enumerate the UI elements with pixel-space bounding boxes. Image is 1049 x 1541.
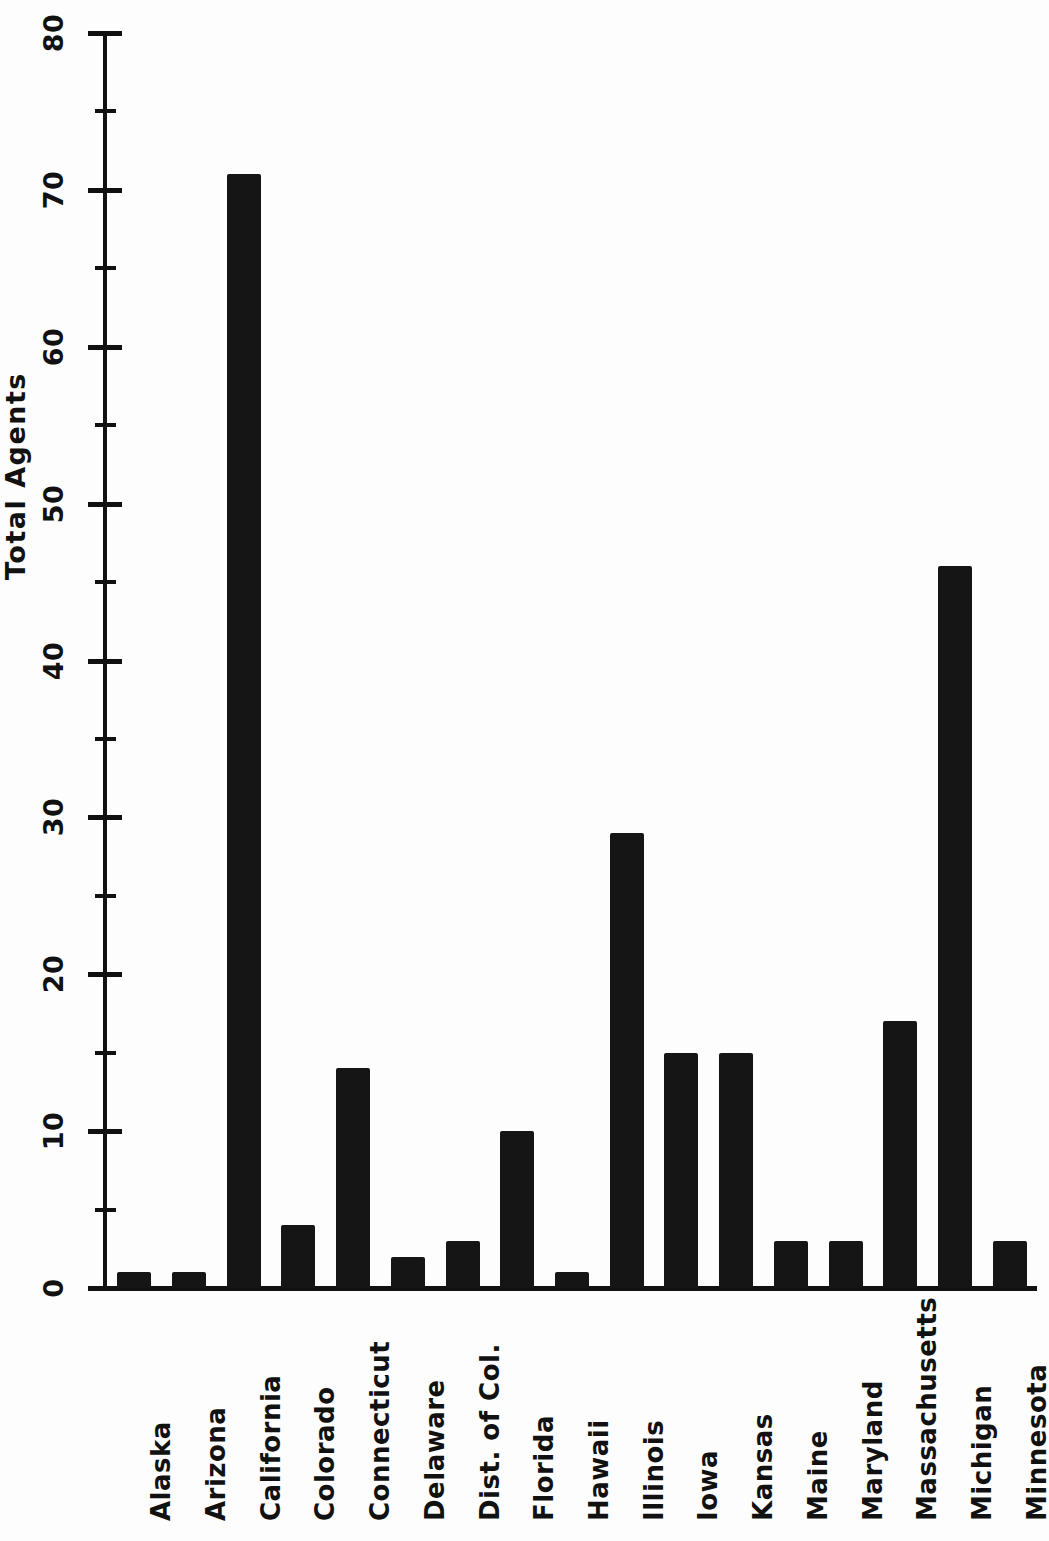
y-tick-30: [88, 815, 122, 820]
y-tick-20: [88, 972, 122, 977]
x-tick-label: Arizona: [201, 1221, 231, 1521]
x-tick-label: Massachusetts: [912, 1221, 942, 1521]
y-tick-40: [88, 659, 122, 664]
x-tick-label: Illinois: [639, 1221, 669, 1521]
y-tick-label-50: 50: [39, 472, 69, 536]
y-tick-label-30: 30: [39, 785, 69, 849]
y-minor-tick-55: [95, 423, 116, 427]
y-minor-tick-25: [95, 894, 116, 898]
y-tick-label-80: 80: [39, 1, 69, 65]
x-tick-label: Connecticut: [365, 1221, 395, 1521]
bar-chart: Total Agents 01020304050607080 AlaskaAri…: [0, 0, 1049, 1541]
x-tick-label: California: [256, 1221, 286, 1521]
y-tick-80: [88, 31, 122, 36]
y-minor-tick-45: [95, 580, 116, 584]
plot-area: 01020304050607080 AlaskaArizonaCaliforni…: [0, 0, 1049, 1541]
y-tick-50: [88, 502, 122, 507]
y-tick-label-10: 10: [39, 1099, 69, 1163]
y-tick-label-60: 60: [39, 315, 69, 379]
y-tick-label-20: 20: [39, 942, 69, 1006]
y-minor-tick-35: [95, 737, 116, 741]
x-tick-label: Maryland: [858, 1221, 888, 1521]
x-tick-label: Kansas: [748, 1221, 778, 1521]
x-tick-label: Florida: [529, 1221, 559, 1521]
x-tick-label: Colorado: [310, 1221, 340, 1521]
y-tick-10: [88, 1129, 122, 1134]
y-minor-tick-65: [95, 266, 116, 270]
x-tick-label: Minnesota: [1022, 1221, 1049, 1521]
y-tick-label-40: 40: [39, 629, 69, 693]
bar: [938, 566, 972, 1288]
x-tick-label: Michigan: [967, 1221, 997, 1521]
x-tick-label: Delaware: [420, 1221, 450, 1521]
y-tick-60: [88, 345, 122, 350]
y-tick-label-70: 70: [39, 158, 69, 222]
bar: [227, 174, 261, 1288]
x-tick-label: Hawaii: [584, 1221, 614, 1521]
y-minor-tick-15: [95, 1051, 116, 1055]
y-tick-70: [88, 188, 122, 193]
x-tick-label: Alaska: [146, 1221, 176, 1521]
x-tick-label: Maine: [803, 1221, 833, 1521]
bar: [610, 833, 644, 1288]
y-minor-tick-75: [95, 109, 116, 113]
y-minor-tick-5: [95, 1208, 116, 1212]
x-tick-label: Iowa: [693, 1221, 723, 1521]
y-tick-label-0: 0: [39, 1256, 69, 1320]
x-tick-label: Dist. of Col.: [475, 1221, 505, 1521]
